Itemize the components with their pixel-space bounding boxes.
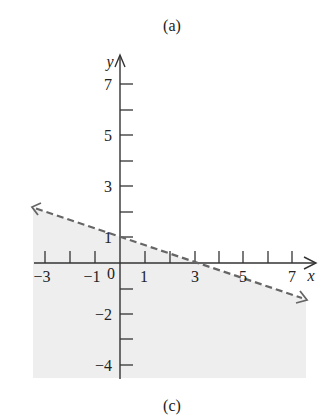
x-tick-label: 5	[239, 268, 247, 285]
inequality-graph: (a) (c) y x −3 −1 0 1 3 5 7 7 5 3 1 −2 −…	[0, 0, 334, 416]
x-tick-label: 7	[288, 268, 296, 285]
y-tick-label: 1	[104, 229, 112, 246]
y-tick-label: −4	[95, 357, 112, 374]
chart-caption: (c)	[163, 397, 181, 415]
y-tick-label: 7	[104, 76, 112, 93]
x-axis-label: x	[306, 267, 314, 284]
x-tick-label: 3	[191, 268, 199, 285]
x-tick-label: −3	[33, 268, 50, 285]
x-tick-label: −1	[83, 268, 100, 285]
y-tick-label: 3	[104, 178, 112, 195]
x-tick-label: 0	[107, 265, 115, 282]
shaded-region	[33, 208, 306, 378]
y-axis-label: y	[104, 53, 114, 71]
chart-title: (a)	[163, 17, 181, 35]
y-tick-label: 5	[104, 127, 112, 144]
x-tick-label: 1	[140, 268, 148, 285]
y-tick-label: −2	[95, 306, 112, 323]
